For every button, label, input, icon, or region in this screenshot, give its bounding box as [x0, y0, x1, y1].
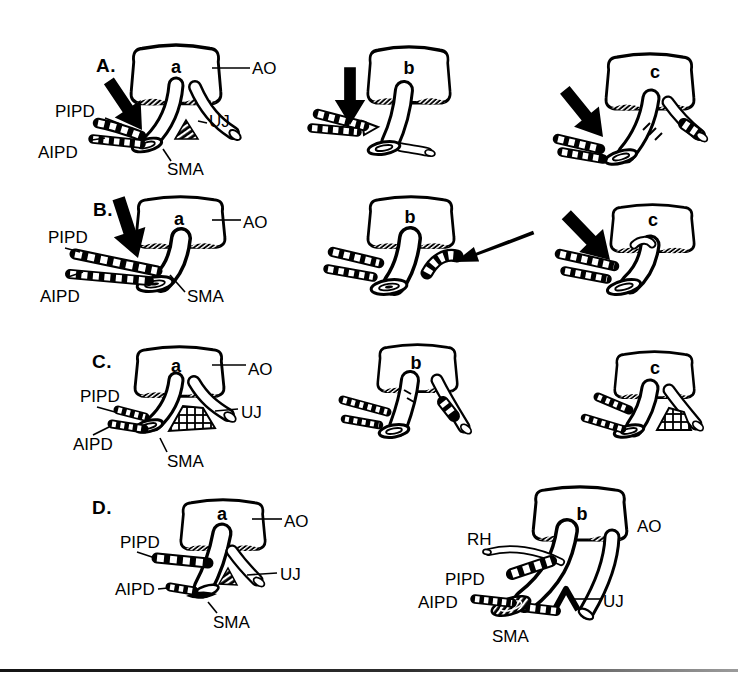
label-uj: UJ	[241, 403, 262, 422]
leader-line	[158, 588, 168, 589]
label-aipd: AIPD	[73, 435, 113, 454]
panel-letter: a	[217, 504, 228, 524]
anatomical-variant-figure: A. B. C. D.	[0, 0, 738, 680]
bottom-rule	[0, 669, 738, 672]
leader-line	[97, 407, 115, 412]
panel-letter: b	[405, 207, 416, 227]
aipd-vessel	[312, 128, 357, 132]
label-uj: UJ	[603, 592, 624, 611]
label-ao: AO	[243, 213, 268, 232]
leader-line	[208, 602, 217, 613]
panel-A-c: c	[530, 38, 738, 173]
panel-A-b: b	[300, 35, 515, 175]
label-ao: AO	[252, 59, 277, 78]
sma-trunk	[398, 380, 410, 427]
arcade-vessel	[530, 608, 556, 611]
panel-letter: a	[174, 209, 185, 229]
label-sma: SMA	[187, 287, 225, 306]
panel-letter: b	[404, 58, 415, 78]
panel-D-b: b AO RH PIPD AIPD UJ SMA	[415, 475, 715, 655]
label-uj: UJ	[280, 565, 301, 584]
label-pipd: PIPD	[80, 387, 120, 406]
aipd-vessel	[93, 139, 141, 144]
panel-B-b: b	[305, 190, 540, 310]
leader-line	[137, 552, 155, 558]
label-sma: SMA	[167, 452, 205, 471]
sma-opening	[367, 139, 401, 156]
aipd-vessel	[585, 418, 622, 429]
label-aipd: AIPD	[40, 287, 80, 306]
anomaly-arrow-icon	[452, 226, 536, 269]
label-aipd: AIPD	[115, 580, 155, 599]
uj-branch	[232, 551, 266, 588]
panel-letter: b	[577, 504, 588, 524]
pipd-vessel	[75, 254, 157, 271]
uj-branch	[400, 147, 436, 157]
pipd-vessel	[318, 114, 364, 126]
label-rh: RH	[467, 530, 492, 549]
label-ao: AO	[284, 512, 309, 531]
vessel-curl	[634, 240, 652, 245]
panel-letter: a	[171, 356, 182, 376]
replaced-vessel-coil	[427, 255, 457, 273]
panel-letter: c	[650, 62, 660, 82]
aipd-vessel	[328, 269, 373, 277]
aipd-vessel	[345, 419, 379, 425]
pipd-vessel	[343, 400, 387, 412]
aipd-vessel	[70, 274, 149, 281]
pipd-vessel	[558, 139, 600, 149]
pipd-vessel	[333, 252, 379, 263]
panel-B-c: c	[530, 195, 738, 310]
label-sma: SMA	[492, 627, 530, 646]
leader-line	[93, 427, 109, 435]
arcade-arch	[175, 120, 198, 139]
aipd-vessel	[170, 587, 194, 591]
panel-C-c: c	[545, 342, 738, 457]
panel-letter: c	[650, 358, 660, 378]
pipd-vessel	[157, 558, 208, 563]
panel-D-a: a AO PIPD AIPD UJ SMA	[60, 485, 320, 645]
panel-C-b: b	[330, 340, 515, 460]
pipd-vessel	[118, 410, 145, 417]
label-ao: AO	[248, 360, 273, 379]
label-pipd: PIPD	[55, 102, 95, 121]
label-pipd: PIPD	[48, 228, 88, 247]
leader-line	[198, 121, 207, 123]
panel-A-a: a AO PIPD AIPD UJ SMA	[35, 35, 290, 185]
label-sma: SMA	[213, 613, 251, 632]
label-aipd: AIPD	[38, 143, 78, 162]
aipd-vessel	[475, 599, 512, 603]
label-uj: UJ	[209, 112, 230, 131]
leader-line	[160, 438, 167, 452]
label-pipd: PIPD	[120, 533, 160, 552]
panel-letter: b	[411, 353, 422, 373]
panel-C-a: a AO PIPD AIPD UJ SMA	[35, 335, 285, 470]
label-ao: AO	[637, 517, 662, 536]
arcade-pattern	[169, 406, 215, 431]
panel-B-a: a AO PIPD AIPD SMA	[35, 190, 285, 315]
label-pipd: PIPD	[445, 570, 485, 589]
aipd-vessel	[565, 271, 607, 279]
sma-opening	[604, 147, 638, 167]
panel-letter: c	[648, 210, 658, 230]
aipd-vessel	[112, 424, 144, 429]
panel-letter: a	[171, 57, 182, 77]
label-aipd: AIPD	[418, 593, 458, 612]
label-sma: SMA	[167, 160, 205, 179]
